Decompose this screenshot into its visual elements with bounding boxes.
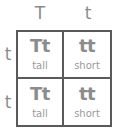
- row-allele-1: t: [1, 43, 15, 65]
- column-allele-2: t: [64, 2, 112, 24]
- phenotype: short: [74, 107, 100, 120]
- genotype: Tt: [30, 36, 50, 56]
- cell-r1-c1: Tt tall: [18, 32, 64, 79]
- phenotype: tall: [32, 107, 48, 120]
- phenotype: short: [74, 59, 100, 72]
- genotype: Tt: [30, 84, 50, 104]
- genotype: tt: [79, 36, 95, 56]
- row-allele-2: t: [1, 91, 15, 113]
- genotype: tt: [79, 84, 95, 104]
- cell-r2-c1: Tt tall: [18, 79, 64, 126]
- column-allele-1: T: [16, 2, 64, 24]
- phenotype: tall: [32, 59, 48, 72]
- cell-r1-c2: tt short: [64, 32, 110, 79]
- punnett-grid: Tt tall tt short Tt tall tt short: [16, 30, 112, 127]
- cell-r2-c2: tt short: [64, 79, 110, 126]
